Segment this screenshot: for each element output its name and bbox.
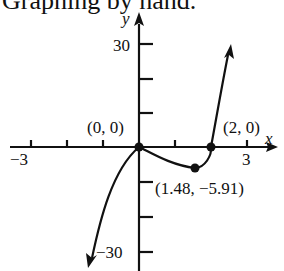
y-tick-neg30: −30	[96, 243, 123, 262]
point-minimum	[191, 164, 200, 173]
y-tick-30: 30	[113, 36, 130, 55]
function-curve	[92, 55, 228, 258]
point-root-2	[207, 143, 216, 152]
curve-arrow-up	[224, 44, 234, 59]
y-axis-label: y	[120, 9, 130, 28]
annotation-origin: (0, 0)	[87, 118, 124, 137]
x-tick-neg3: −3	[10, 150, 28, 169]
point-origin	[135, 143, 144, 152]
annotation-root: (2, 0)	[223, 118, 260, 137]
y-axis	[134, 12, 153, 271]
annotation-minimum: (1.48, −5.91)	[155, 179, 244, 198]
x-axis-label: x	[264, 129, 273, 148]
graph: y x 30 −30 −3 3 (0, 0) (2, 0) (1.48, −5.…	[0, 0, 284, 271]
x-tick-3: 3	[242, 150, 251, 169]
